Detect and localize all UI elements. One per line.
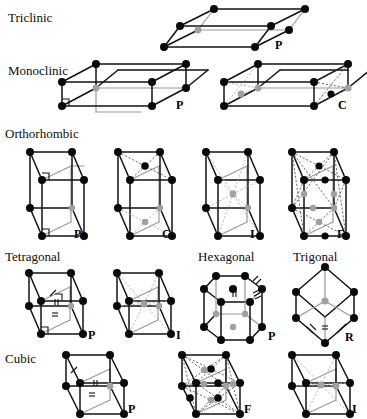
lattice-node [288,382,296,390]
lattice-node [80,176,88,184]
lattice-cubic-p [62,351,128,418]
lattice-node [120,379,128,387]
lattice-node [114,148,122,156]
lattice-node [321,297,328,304]
lattice-node [202,204,210,212]
lattice-node [331,205,337,211]
lattice-node [62,351,70,359]
lattice-node [342,232,350,240]
lattice-trigonal-r [292,263,358,347]
lattice-node [346,379,354,387]
lattice-centre-node [317,381,324,388]
lattice-tetragonal-p [25,269,87,338]
lattice-node [346,410,354,418]
lattice-node [167,330,175,338]
lattice-centre-node [142,219,148,225]
lattice-node [176,22,184,30]
lattice-node [344,60,352,68]
lattice-node [148,102,156,110]
lattice-node [178,351,186,359]
lattice-node [217,336,225,344]
lattice-face-node [321,176,328,183]
lattice-node [37,330,45,338]
lattice-face-node [208,397,215,404]
lattice-node [58,102,66,110]
lattice-node [285,26,293,34]
lattice-node [350,288,358,296]
lattice-node [157,205,163,211]
lattice-node [288,148,296,156]
lattice-centre-node [238,91,245,98]
lattice-centre-node [230,324,236,330]
lattice-node [245,205,251,211]
lattice-monoclinic-c [220,60,367,110]
lattice-node [223,383,230,390]
lattice-node [68,303,74,309]
lattice-node [300,176,308,184]
lattice-node [168,176,176,184]
lattice-orthorhombic-p [26,148,88,240]
lattice-face-node [310,205,316,211]
lattice-node [192,410,200,418]
lattice-face-node [230,381,237,388]
lattice-node [321,263,329,271]
lattice-node [267,22,275,30]
lattice-node [242,311,248,317]
lattice-node [156,303,162,309]
lattice-node [217,298,225,306]
lattice-node [342,176,350,184]
lattice-node [258,323,266,331]
lattice-triclinic-p [160,5,309,51]
lattice-node [321,339,329,347]
lattice-node [62,382,70,390]
lattice-node [148,78,156,86]
lattice-node [302,410,310,418]
lattice-node [192,379,200,387]
lattice-node [310,78,318,86]
lattice-node [120,410,128,418]
lattice-node [26,204,34,212]
lattice-node [214,232,222,240]
lattice-face-node [214,394,222,402]
lattice-node [58,78,66,86]
lattice-centre-node [230,191,237,198]
lattice-node [25,302,33,310]
lattice-face-node [321,232,328,239]
lattice-node [300,232,308,240]
lattice-node [241,272,249,280]
lattice-node [76,379,84,387]
lattice-cubic-f [178,351,244,418]
lattice-node [126,232,134,240]
lattice-centre-node [140,300,147,307]
lattice-node [106,351,114,359]
lattice-node [288,351,296,359]
lattice-node [68,148,76,156]
lattice-orthorhombic-i [202,148,264,240]
lattice-node [256,176,264,184]
lattice-node [246,336,254,344]
lattice-node [292,288,300,296]
lattice-node [126,176,134,184]
lattice-tetragonal-i [113,269,175,338]
lattice-node [79,297,87,305]
lattice-node [25,269,33,277]
lattice-cubic-i [288,351,354,418]
lattice-node [292,314,300,322]
lattice-face-node [186,394,194,402]
lattice-node [236,379,244,387]
lattice-node [220,78,228,86]
lattice-node [160,43,168,51]
lattice-node [333,383,340,390]
lattice-node [288,204,296,212]
lattice-face-node [201,381,208,388]
lattice-node [251,43,259,51]
lattice-node [182,60,190,68]
lattice-node [301,5,309,13]
bravais-lattice-figure: Triclinic Monoclinic Orthorhombic Tetrag… [0,0,367,419]
lattice-node [76,410,84,418]
lattice-node [254,60,262,68]
lattice-face-node [207,365,215,373]
lattice-node [255,85,262,92]
lattice-node [67,269,75,277]
lattice-node [37,297,45,305]
